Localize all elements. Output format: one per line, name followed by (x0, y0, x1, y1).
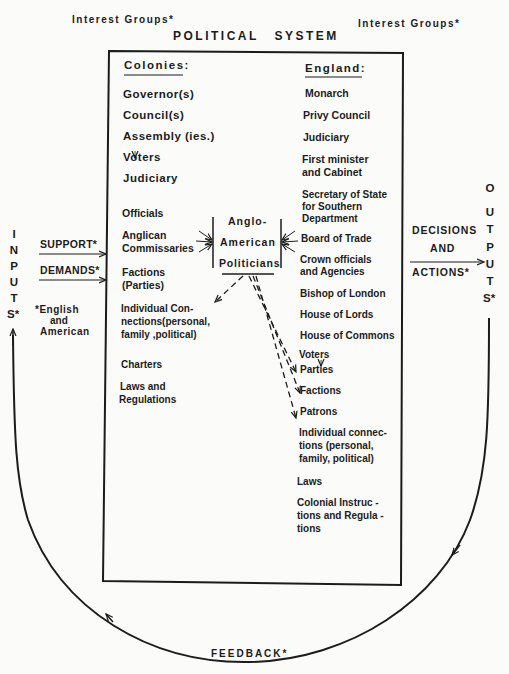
england-item: House of Commons (300, 330, 394, 341)
colonies-item: Individual Con- (121, 303, 193, 314)
decisions-label: DECISIONS (412, 225, 477, 237)
colonies-item: nections(personal, (121, 316, 210, 327)
england-item: family, political) (299, 453, 374, 464)
england-item: tions (297, 523, 321, 534)
england-item: Bishop of London (300, 288, 386, 299)
england-item: Crown officials (300, 254, 372, 265)
center-label: Politicians (219, 258, 280, 270)
colonies-heading: Colonies: (124, 59, 190, 72)
interest-groups-right: Interest Groups* (358, 18, 460, 29)
england-item: Board of Trade (301, 233, 372, 244)
colonies-item: Voters (123, 151, 161, 164)
outputs-letter: U (483, 205, 497, 221)
england-item: Individual connec- (299, 427, 387, 438)
colonies-item: family ,political) (121, 329, 197, 340)
england-item: House of Lords (300, 309, 373, 320)
colonies-item: Governor(s) (123, 88, 194, 101)
feedback-loop (13, 318, 489, 662)
england-item: Factions (300, 385, 341, 396)
inputs-letter: P (7, 259, 21, 275)
england-item: Monarch (305, 88, 349, 100)
english-american-note: American (40, 326, 90, 337)
colonies-item: Factions (122, 267, 165, 279)
england-item: tions and Regula - (297, 510, 384, 521)
england-item: Colonial Instruc - (297, 497, 379, 508)
colonies-item: Council(s) (123, 109, 184, 122)
and-label: AND (430, 243, 455, 255)
england-item: Privy Council (303, 110, 370, 122)
outputs-letter: T (483, 222, 497, 238)
colonies-item: (Parties) (122, 280, 164, 292)
england-item: Voters (299, 349, 329, 360)
england-item: Patrons (300, 406, 337, 417)
inputs-letter: U (7, 275, 21, 291)
england-item: Laws (297, 476, 322, 487)
actions-label: ACTIONS* (412, 267, 470, 279)
english-american-note: *English (35, 304, 79, 315)
england-item: Judiciary (303, 132, 349, 144)
inputs-letter: I (7, 227, 21, 243)
colonies-item: Commissaries (122, 243, 194, 255)
diagram-lines (0, 0, 509, 674)
interest-groups-left: Interest Groups* (72, 14, 174, 25)
support-label: SUPPORT* (40, 239, 97, 251)
english-american-note: and (50, 315, 68, 326)
england-item: Parties (300, 364, 333, 375)
colonies-item: Laws and (120, 381, 166, 392)
england-item: for Southern (302, 201, 362, 212)
center-label: American (220, 237, 276, 249)
england-item: First minister (302, 154, 369, 166)
colonies-item: Regulations (119, 394, 176, 405)
england-heading: England: (305, 62, 366, 75)
outputs-letter: O (483, 181, 497, 197)
outputs-letter: U (483, 257, 497, 273)
colonies-item: Assembly (ies.) (123, 130, 215, 143)
diagram-title: POLITICAL SYSTEM (173, 30, 339, 43)
outputs-letter: T (483, 274, 497, 290)
inputs-letter: T (7, 291, 21, 307)
england-item: tions (personal, (299, 440, 373, 451)
demands-label: DEMANDS* (40, 265, 100, 277)
inputs-letter: S* (7, 307, 29, 323)
outputs-letter: P (483, 240, 497, 256)
england-item: and Cabinet (302, 167, 362, 179)
colonies-item: Judiciary (123, 172, 178, 185)
colonies-item: Charters (121, 359, 162, 370)
outputs-letter: S* (483, 291, 505, 307)
center-label: Anglo- (228, 216, 267, 228)
colonies-item: Officials (122, 208, 163, 220)
inputs-letter: N (7, 243, 21, 259)
feedback-label: FEEDBACK* (211, 648, 288, 659)
colonies-item: Anglican (122, 230, 166, 242)
england-item: Secretary of State (302, 189, 387, 200)
england-item: Department (302, 213, 358, 224)
england-item: and Agencies (300, 266, 365, 277)
